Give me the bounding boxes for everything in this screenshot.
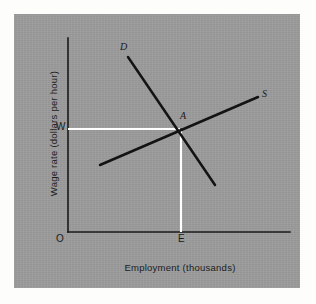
axis-group [68,38,290,232]
equilibrium-point-label: A [180,110,186,121]
chart-panel: Wage rate (dollars per hour) Employment … [14,14,300,288]
y-axis-title: Wage rate (dollars per hour) [48,49,59,219]
guide-line-group [68,129,181,232]
equilibrium-point-A [180,128,182,130]
x-axis-value-label-e: E [178,233,185,244]
origin-label: O [56,233,64,244]
supply-curve-label: S [262,88,267,99]
x-axis-title: Employment (thousands) [100,262,260,273]
supply-curve [100,97,258,165]
y-axis-value-label-w: W [56,121,65,132]
demand-curve-label: D [120,41,127,52]
figure-root: Wage rate (dollars per hour) Employment … [0,0,316,304]
